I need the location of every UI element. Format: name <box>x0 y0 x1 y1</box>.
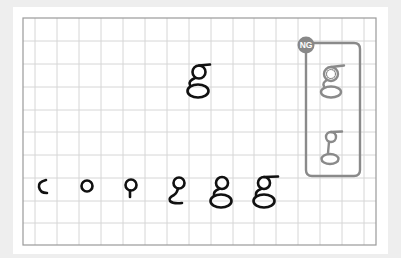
step-4-circle-hook <box>170 178 185 204</box>
model-glyph-g <box>188 65 211 98</box>
ng-example-1 <box>321 66 344 98</box>
ng-example-2 <box>322 132 343 165</box>
step-1-arc <box>39 180 47 193</box>
handwriting-grid-diagram: NG <box>0 0 401 258</box>
stroke-order-steps <box>39 177 278 208</box>
ng-badge-label: NG <box>300 40 313 50</box>
step-6-complete-g <box>254 177 279 208</box>
step-5-g-no-bar <box>211 177 232 208</box>
step-3-circle-stem <box>126 180 137 198</box>
ng-badge: NG <box>298 37 315 54</box>
step-2-circle <box>82 181 93 192</box>
grid <box>23 18 376 245</box>
